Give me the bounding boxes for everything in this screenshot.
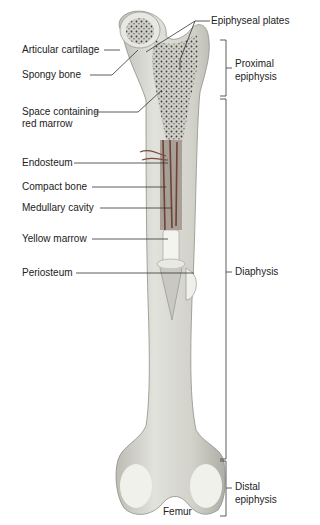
label-medullary-cavity: Medullary cavity	[22, 202, 94, 214]
label-proximal-epiphysis-1: Proximal	[235, 58, 274, 70]
label-articular-cartilage: Articular cartilage	[22, 44, 99, 56]
label-compact-bone: Compact bone	[22, 181, 87, 193]
label-yellow-marrow: Yellow marrow	[22, 233, 87, 245]
label-proximal-epiphysis-2: epiphysis	[235, 71, 277, 83]
spongy-bone-head	[126, 18, 154, 44]
label-distal-epiphysis-2: epiphysis	[235, 494, 277, 506]
label-epiphyseal-plates: Epiphyseal plates	[211, 15, 289, 27]
label-endosteum: Endosteum	[22, 157, 73, 169]
label-spongy-bone: Spongy bone	[22, 69, 81, 81]
label-periosteum: Periosteum	[22, 267, 73, 279]
label-space-red-marrow: Space containing red marrow	[22, 106, 102, 130]
label-distal-epiphysis-1: Distal	[235, 481, 260, 493]
label-diaphysis: Diaphysis	[235, 266, 278, 278]
figure-caption: Femur	[163, 506, 192, 518]
